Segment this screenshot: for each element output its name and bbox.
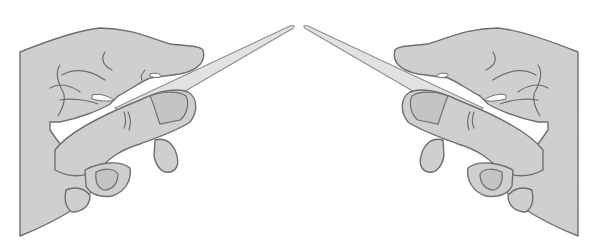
left-hand (20, 25, 294, 236)
right-hand (304, 25, 578, 236)
illustration-canvas: Two hands facing each other, each holdin… (0, 0, 598, 249)
two-hands-with-blades-illustration (0, 0, 598, 249)
